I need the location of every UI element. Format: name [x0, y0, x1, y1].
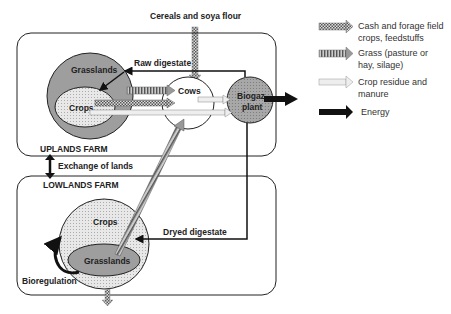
legend-item-checkered: Cash and forage field crops, feedstuffs [319, 20, 444, 43]
raw-digestate-label: Raw digestate [134, 58, 191, 68]
legend-solid-line1: Energy [361, 107, 390, 117]
biogas-label-line1: Biogaz [237, 91, 265, 101]
uplands-farm-label: UPLANDS FARM [40, 144, 108, 154]
legend-striped-line2: hay, silage) [358, 60, 403, 70]
legend-light-line2: manure [358, 89, 389, 99]
exchange-lands-arrow [45, 154, 55, 179]
legend: Cash and forage field crops, feedstuffs … [319, 20, 444, 119]
farm-system-diagram: Cereals and soya flour Grasslands Crops … [0, 0, 451, 314]
cereals-soya-label: Cereals and soya flour [150, 11, 242, 21]
raw-digestate-line [125, 71, 245, 77]
lowlands-farm-label: LOWLANDS FARM [43, 180, 119, 190]
lowlands-grasslands-label: Grasslands [84, 256, 131, 266]
cereals-input-arrow [189, 27, 201, 82]
dryed-digestate-label: Dryed digestate [163, 227, 227, 237]
legend-item-light: Crop residue and manure [319, 76, 427, 99]
exchange-lands-label: Exchange of lands [58, 161, 133, 171]
legend-item-solid: Energy [319, 105, 390, 119]
legend-checkered-line1: Cash and forage field [358, 21, 444, 31]
bioregulation-label: Bioregulation [22, 276, 77, 286]
legend-striped-line1: Grass (pasture or [358, 48, 428, 58]
uplands-grasslands-label: Grasslands [71, 65, 118, 75]
lowlands-crops-label: Crops [93, 217, 118, 227]
legend-item-striped: Grass (pasture or hay, silage) [319, 47, 428, 70]
grass-to-cows-arrow [127, 85, 175, 96]
lowlands-output-arrow [102, 289, 113, 306]
biogas-label-line2: plant [242, 102, 262, 112]
legend-checkered-line2: crops, feedstuffs [358, 33, 424, 43]
cows-label: Cows [178, 86, 201, 96]
legend-light-line1: Crop residue and [358, 77, 427, 87]
